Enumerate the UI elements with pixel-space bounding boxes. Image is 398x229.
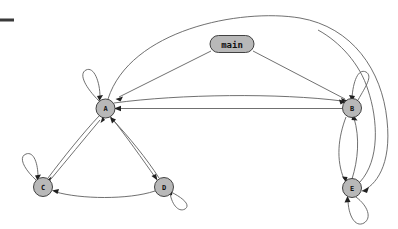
node-main-label: main — [221, 40, 243, 50]
node-a[interactable]: A — [96, 99, 115, 118]
crop-mark-icon — [0, 19, 14, 22]
edge-e-self-loop — [345, 196, 369, 224]
edge-a-to-b — [114, 96, 346, 105]
edge-e-to-b — [352, 115, 358, 180]
edge-b-to-a — [114, 106, 342, 111]
edge-layer — [22, 16, 388, 224]
edge-b-to-e — [339, 117, 348, 183]
node-layer: main A B C D E — [34, 36, 362, 198]
edge-main-to-b — [253, 51, 349, 103]
edge-a-to-d — [111, 117, 158, 181]
call-graph-canvas: main A B C D E — [0, 0, 398, 229]
node-c-label: C — [41, 184, 45, 192]
node-e[interactable]: E — [343, 179, 362, 198]
node-b-label: B — [350, 105, 354, 113]
edge-c-self-loop — [22, 154, 41, 181]
node-c[interactable]: C — [34, 178, 53, 197]
edge-c-to-a — [51, 117, 105, 180]
call-graph-svg: main A B C D E — [0, 0, 398, 229]
edge-main-to-a — [116, 51, 212, 102]
edge-b-self-loop — [349, 71, 369, 101]
node-e-label: E — [350, 185, 354, 193]
edge-a-self-loop — [83, 69, 103, 101]
edge-d-to-c — [52, 189, 155, 198]
node-b[interactable]: B — [343, 99, 362, 118]
node-main[interactable]: main — [210, 36, 254, 53]
edge-a-to-c — [46, 116, 100, 182]
node-d-label: D — [162, 184, 166, 192]
node-d[interactable]: D — [155, 178, 174, 197]
edge-d-to-a — [110, 117, 159, 178]
